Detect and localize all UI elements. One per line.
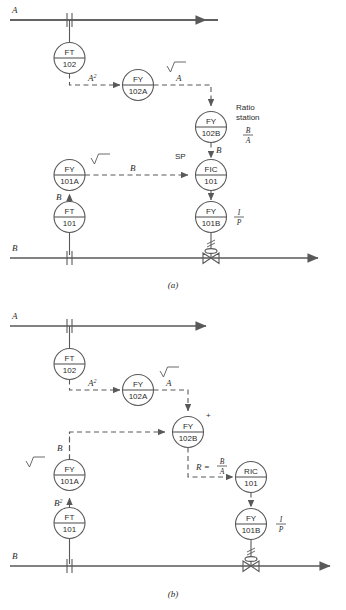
divider-plus-sign: +: [206, 411, 211, 420]
ratio-eq-prefix: R =: [195, 462, 210, 472]
ft-101-line1-b: FT: [65, 513, 75, 522]
signal-label-a-out: A: [175, 73, 182, 83]
ratio-denominator-a: A: [245, 136, 251, 145]
fy-101a-line1-b: FY: [64, 465, 75, 474]
signal-fy102b-to-ric101: [188, 448, 233, 478]
signal-label-a-squared-b: A2: [87, 378, 97, 388]
fic-101-line1: FIC: [205, 165, 218, 174]
ft-102-line1-b: FT: [65, 354, 75, 363]
ratio-denominator-b: A: [219, 467, 225, 476]
signal-label-b-to-fy101a: B: [56, 192, 62, 202]
signal-fy102a-to-fy102b: [154, 390, 189, 411]
fy-102b-line1-b: FY: [183, 422, 194, 431]
signal-label-b-measured: B: [130, 163, 136, 173]
sqrt-icon-b-fy101a: [26, 457, 45, 467]
ric-101-line1: RIC: [244, 467, 258, 476]
ratio-numerator-a: B: [246, 126, 251, 135]
ip-denominator-b: P: [278, 525, 284, 534]
signal-fy102a-to-fy102b: [154, 85, 212, 106]
setpoint-label: SP: [175, 152, 186, 161]
ft-102-line1: FT: [65, 48, 75, 57]
ft-102-line2: 102: [63, 60, 77, 69]
fy-101b-line2: 101B: [202, 219, 221, 228]
stream-label-b-bottom: B: [12, 243, 18, 253]
ft-101-line1: FT: [65, 207, 75, 216]
ft-101-line2: 101: [63, 219, 77, 228]
ratio-station-line1: Ratio: [236, 103, 255, 112]
stream-label-b-bottom-b: B: [12, 551, 18, 561]
fy-102b-line2-b: 102B: [179, 434, 198, 443]
panel-a-caption: (a): [168, 280, 179, 290]
fy-101b-line1: FY: [206, 207, 217, 216]
fy-102a-line2: 102A: [129, 87, 148, 96]
panel-a: [10, 13, 318, 265]
signal-label-a-out-b: A: [165, 378, 172, 388]
ratio-station-line2: station: [236, 113, 260, 122]
fy-102a-line1-b: FY: [133, 380, 144, 389]
signal-label-b-from-ratio: B: [216, 145, 222, 155]
ip-numerator-b: I: [279, 515, 283, 524]
fy-101b-line1-b: FY: [246, 514, 257, 523]
ip-numerator-a: I: [237, 208, 241, 217]
fic-101-line2: 101: [204, 177, 218, 186]
panel-b-caption: (b): [168, 589, 179, 599]
fy-102a-line1: FY: [133, 75, 144, 84]
ip-denominator-a: P: [236, 218, 242, 227]
fy-102a-line2-b: 102A: [129, 392, 148, 401]
signal-fy101a-to-fy102b: [70, 432, 166, 450]
control-valve-b[interactable]: [243, 557, 259, 572]
fy-101a-line2: 101A: [60, 177, 79, 186]
ric-101-line2: 101: [244, 479, 258, 488]
stream-label-a-top: A: [11, 5, 18, 15]
sqrt-icon-a-fy102a: [167, 62, 186, 72]
signal-label-a-squared: A2: [87, 73, 97, 83]
stream-label-a-top-b: A: [11, 311, 18, 321]
pid-diagram-svg: A B FT 102 FY 102A FY 102B FIC 101 FY 10…: [0, 0, 346, 610]
fy-101a-line1: FY: [64, 165, 75, 174]
signal-label-b-squared: B2: [54, 498, 63, 508]
ft-101-line2-b: 101: [63, 525, 77, 534]
sqrt-icon-b-fy102a: [160, 367, 179, 377]
fy-101a-line2-b: 101A: [60, 477, 79, 486]
fy-102b-line2: 102B: [202, 129, 221, 138]
sqrt-icon-a-fy101a: [91, 154, 110, 164]
control-valve-a[interactable]: [203, 249, 219, 264]
figure-canvas: A B FT 102 FY 102A FY 102B FIC 101 FY 10…: [0, 0, 346, 610]
signal-label-b-to-fy102b: B: [57, 443, 63, 453]
fy-102b-line1: FY: [206, 117, 217, 126]
fy-101b-line2-b: 101B: [242, 526, 261, 535]
ratio-numerator-b: B: [220, 457, 225, 466]
ft-102-line2-b: 102: [63, 366, 77, 375]
